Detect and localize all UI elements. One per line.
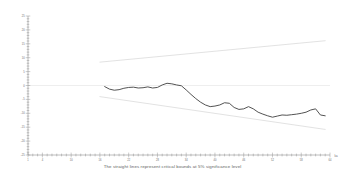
y-axis-tick-label: -15 [21, 125, 25, 129]
y-axis-tick-label: -10 [21, 111, 25, 115]
y-axis-tick-label: -20 [21, 139, 25, 143]
plot-canvas: 2520151050-5-10-15-20-25 141016222834404… [0, 0, 345, 181]
chart-caption: The straight lines represent critical bo… [0, 164, 345, 169]
x-axis-name-group: ka [335, 154, 338, 158]
y-axis-tick-label: -25 [21, 153, 25, 157]
x-axis-name: ka [335, 154, 338, 158]
cusum-chart: 2520151050-5-10-15-20-25 141016222834404… [0, 0, 345, 181]
